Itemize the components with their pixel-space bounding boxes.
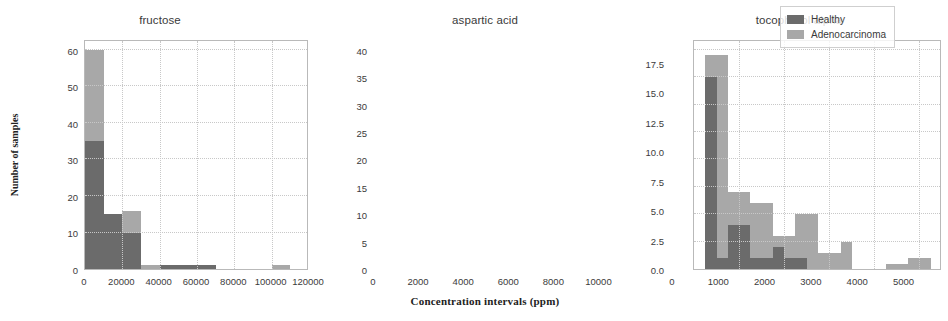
bars-fructose [85,41,307,269]
histogram-bar [160,265,179,269]
y-tick-label: 60 [44,45,78,56]
y-tick-label: 35 [333,73,367,84]
gridline-horizontal [85,158,307,159]
x-tick-label: 0 [669,276,674,287]
y-tick-label: 10 [333,210,367,221]
histogram-bar [197,265,216,269]
plot-area-fructose [84,40,308,270]
x-tick-label: 3000 [800,276,821,287]
y-tick-label: 10.0 [620,147,664,158]
x-tick-label: 60000 [183,276,209,287]
x-tick-label: 6000 [498,276,519,287]
gridline-horizontal [85,195,307,196]
panel-tocopherol-alpha: tocopherol alpha Healthy Adenocarcinoma … [650,0,948,321]
y-tick-label: 5.0 [620,206,664,217]
legend-item-adenocarcinoma: Adenocarcinoma [787,27,886,42]
y-tick-label: 10 [44,228,78,239]
x-tick-label: 1000 [708,276,729,287]
histogram-bar [122,233,141,270]
histogram-bar [272,265,291,269]
y-tick-label: 12.5 [620,117,664,128]
y-tick-label: 2.5 [620,235,664,246]
x-tick-label: 10000 [585,276,611,287]
y-tick-label: 20 [44,191,78,202]
y-tick-label: 25 [333,128,367,139]
x-tick-label: 4000 [453,276,474,287]
y-tick-label: 7.5 [620,176,664,187]
histogram-bar [141,265,160,269]
gridline-vertical [122,41,123,269]
gridline-horizontal [85,232,307,233]
legend: Healthy Adenocarcinoma [780,6,895,48]
panel-fructose: fructose Number of samples 0200004000060… [0,0,320,321]
x-tick-label: 100000 [255,276,287,287]
legend-swatch-adenocarcinoma [787,30,804,39]
y-tick-label: 5 [333,237,367,248]
y-tick-label: 17.5 [620,58,664,69]
y-tick-label: 0 [333,265,367,276]
x-tick-label: 8000 [543,276,564,287]
y-axis-label: Number of samples [9,114,20,197]
histogram-figure: fructose Number of samples 0200004000060… [0,0,948,321]
gridline-vertical [234,41,235,269]
x-tick-label: 0 [370,276,375,287]
panel-title-fructose: fructose [0,14,320,26]
x-tick-label: 20000 [108,276,134,287]
gridline-horizontal [85,85,307,86]
y-tick-label: 40 [333,45,367,56]
x-tick-label: 4000 [847,276,868,287]
y-tick-label: 30 [333,100,367,111]
y-tick-label: 50 [44,82,78,93]
y-tick-label: 15 [333,182,367,193]
y-tick-label: 15.0 [620,88,664,99]
panel-title-aspartic-acid: aspartic acid [320,14,650,26]
gridline-vertical [272,41,273,269]
gridline-horizontal [85,122,307,123]
y-tick-label: 20 [333,155,367,166]
x-tick-label: 5000 [893,276,914,287]
x-tick-label: 0 [81,276,86,287]
x-tick-label: 40000 [145,276,171,287]
x-tick-label: 2000 [408,276,429,287]
x-axis-label: Concentration intervals (ppm) [320,295,650,307]
y-tick-label: 40 [44,118,78,129]
y-tick-label: 0.0 [620,265,664,276]
legend-item-healthy: Healthy [787,12,886,27]
gridline-vertical [197,41,198,269]
histogram-bar [178,265,197,269]
panel-aspartic-acid: aspartic acid Concentration intervals (p… [320,0,650,321]
histogram-bar [104,214,123,269]
y-tick-label: 30 [44,155,78,166]
y-tick-label: 0 [44,265,78,276]
legend-label-adenocarcinoma: Adenocarcinoma [811,29,886,40]
x-tick-label: 2000 [754,276,775,287]
x-tick-label: 80000 [220,276,246,287]
legend-label-healthy: Healthy [811,14,845,25]
legend-swatch-healthy [787,15,804,24]
histogram-bar [85,141,104,269]
gridline-vertical [160,41,161,269]
gridline-horizontal [85,49,307,50]
